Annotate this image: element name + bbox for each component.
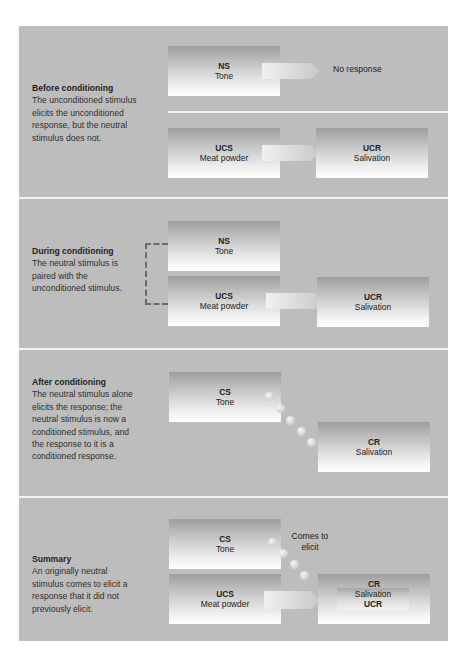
box-name: Tone bbox=[215, 71, 233, 81]
box-abbr: UCS bbox=[215, 291, 233, 301]
caption-summary: Summary An originally neutral stimulus c… bbox=[32, 553, 137, 615]
caption-title: After conditioning bbox=[32, 376, 137, 388]
caption-title: During conditioning bbox=[32, 245, 137, 257]
ucs-box: UCS Meat powder bbox=[168, 276, 280, 326]
arrow-icon bbox=[262, 145, 320, 161]
salivation-strip: Salivation UCR bbox=[337, 588, 409, 610]
arrow-icon bbox=[262, 63, 320, 79]
box-abbr: UCS bbox=[216, 589, 234, 599]
box-name: Salivation bbox=[355, 302, 391, 312]
box-name: Tone bbox=[216, 397, 234, 407]
caption-title: Before conditioning bbox=[32, 82, 137, 94]
caption-after: After conditioning The neutral stimulus … bbox=[32, 376, 137, 463]
cs-box: CS Tone bbox=[169, 519, 281, 569]
arrow-icon bbox=[266, 293, 324, 309]
bubble-icon bbox=[290, 560, 299, 569]
caption-text: The neutral stimulus alone elicits the r… bbox=[32, 389, 133, 461]
bubble-icon bbox=[286, 416, 295, 425]
box-abbr: NS bbox=[218, 236, 230, 246]
caption-before: Before conditioning The unconditioned st… bbox=[32, 82, 137, 144]
box-name: Meat powder bbox=[200, 153, 248, 163]
ucr-box: UCR Salivation bbox=[316, 128, 428, 178]
arrow-icon bbox=[264, 591, 320, 609]
cr-box: CR Salivation bbox=[318, 422, 430, 472]
box-name: Tone bbox=[215, 246, 233, 256]
box-name: Tone bbox=[216, 544, 234, 554]
caption-during: During conditioning The neutral stimulus… bbox=[32, 245, 137, 295]
no-response-label: No response bbox=[333, 64, 382, 75]
pairing-bracket-icon bbox=[145, 243, 168, 305]
box-name: Salivation bbox=[354, 153, 390, 163]
box-name: Meat powder bbox=[201, 599, 249, 609]
box-abbr: UCS bbox=[215, 143, 233, 153]
inner-divider bbox=[168, 111, 448, 113]
box-abbr: CS bbox=[219, 387, 231, 397]
box-abbr: NS bbox=[218, 61, 230, 71]
caption-title: Summary bbox=[32, 553, 137, 565]
box-abbr: UCR bbox=[364, 292, 382, 302]
box-abbr: CR bbox=[368, 437, 380, 447]
caption-text: The unconditioned stimulus elicits the u… bbox=[32, 95, 137, 142]
ucr-box: UCR Salivation bbox=[317, 277, 429, 327]
box-abbr: CS bbox=[219, 534, 231, 544]
strip-abbr: UCR bbox=[337, 600, 409, 610]
bubble-icon bbox=[265, 392, 274, 401]
bubble-icon bbox=[268, 538, 277, 547]
bubble-icon bbox=[300, 571, 309, 580]
box-name: Salivation bbox=[356, 447, 392, 457]
box-name: Meat powder bbox=[200, 301, 248, 311]
bubble-icon bbox=[276, 404, 285, 413]
box-abbr: UCR bbox=[363, 143, 381, 153]
ns-box: NS Tone bbox=[168, 221, 280, 271]
bubble-icon bbox=[297, 427, 306, 436]
caption-text: An originally neutral stimulus comes to … bbox=[32, 566, 128, 613]
bubble-icon bbox=[307, 438, 316, 447]
caption-text: The neutral stimulus is paired with the … bbox=[32, 258, 122, 293]
comes-to-elicit-label: Comes to elicit bbox=[285, 531, 335, 553]
